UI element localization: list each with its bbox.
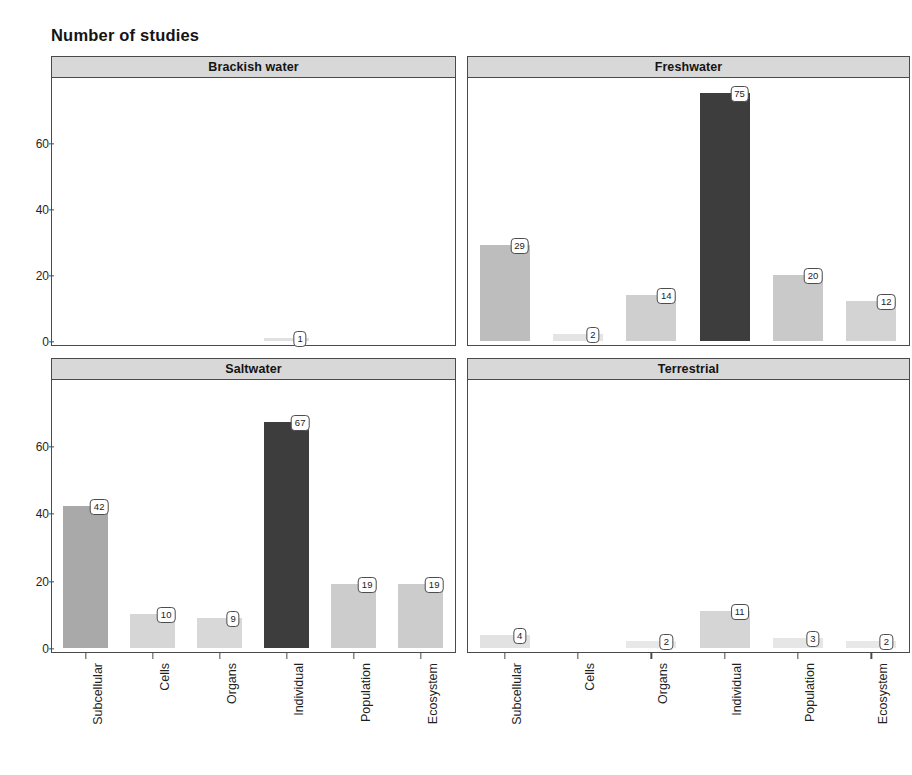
x-axis-tick-mark <box>219 653 220 659</box>
bar-value-label: 3 <box>806 631 819 647</box>
bar-ecosystem <box>398 584 444 648</box>
y-axis-brackish-water: 0204060 <box>9 84 49 342</box>
y-axis-tick-label: 40 <box>36 203 49 217</box>
bar-population <box>331 584 377 648</box>
bar-value-label: 75 <box>730 86 749 102</box>
y-axis-tick-mark <box>49 143 54 144</box>
y-axis-tick-mark <box>49 209 54 210</box>
chart-title: Number of studies <box>51 26 199 45</box>
y-axis-tick-mark <box>49 446 54 447</box>
x-axis-tick-mark <box>871 653 872 659</box>
bar-value-label: 19 <box>425 577 444 593</box>
bar-population <box>773 275 823 341</box>
plot-area-brackish-water: 1 <box>51 77 456 346</box>
plot-inner: 421132 <box>468 386 909 648</box>
bar-value-label: 20 <box>804 268 823 284</box>
y-axis-tick-label: 60 <box>36 440 49 454</box>
y-axis-tick-mark <box>49 275 54 276</box>
bar-individual <box>264 422 310 648</box>
y-axis-tick-label: 20 <box>36 575 49 589</box>
panel-saltwater: Saltwater42109671919 <box>51 358 456 653</box>
x-axis-tick-label-ecosystem: Ecosystem <box>876 663 890 724</box>
y-axis-tick-label: 0 <box>42 642 49 656</box>
panel-terrestrial: Terrestrial421132 <box>467 358 910 653</box>
bar-value-label: 2 <box>880 634 893 650</box>
x-axis-tick-mark <box>651 653 652 659</box>
bar-value-label: 29 <box>510 238 529 254</box>
x-axis-tick-mark <box>286 653 287 659</box>
bar-value-label: 12 <box>877 294 896 310</box>
plot-inner: 29214752012 <box>468 84 909 341</box>
plot-inner: 1 <box>52 84 455 341</box>
x-axis-tick-label-organs: Organs <box>656 663 670 704</box>
y-axis-tick-mark <box>49 581 54 582</box>
y-axis-tick-mark <box>49 648 54 649</box>
panel-freshwater: Freshwater29214752012 <box>467 56 910 346</box>
bar-value-label: 2 <box>660 634 673 650</box>
x-axis-tick-label-subcellular: Subcellular <box>91 663 105 725</box>
panel-header-label: Saltwater <box>225 362 281 376</box>
x-axis-terrestrial: SubcellularCellsOrgansIndividualPopulati… <box>468 653 908 773</box>
bar-value-label: 2 <box>586 327 599 343</box>
y-axis-tick-label: 20 <box>36 269 49 283</box>
plot-area-terrestrial: 421132 <box>467 379 910 653</box>
x-axis-tick-mark <box>420 653 421 659</box>
y-axis-tick-mark <box>49 341 54 342</box>
x-axis-tick-mark <box>577 653 578 659</box>
bar-value-label: 1 <box>294 331 307 347</box>
x-axis-saltwater: SubcellularCellsOrgansIndividualPopulati… <box>52 653 454 773</box>
y-axis-tick-label: 0 <box>42 335 49 349</box>
bar-value-label: 10 <box>157 607 176 623</box>
y-axis-tick-label: 60 <box>36 137 49 151</box>
panel-header-label: Brackish water <box>208 60 298 74</box>
plot-area-freshwater: 29214752012 <box>467 77 910 346</box>
bar-value-label: 42 <box>90 499 109 515</box>
bar-value-label: 9 <box>227 611 240 627</box>
panel-header-label: Terrestrial <box>658 362 719 376</box>
bar-value-label: 11 <box>731 604 749 620</box>
x-axis-tick-label-population: Population <box>803 663 817 722</box>
x-axis-tick-mark <box>504 653 505 659</box>
panel-header-terrestrial: Terrestrial <box>467 358 910 380</box>
plot-inner: 42109671919 <box>52 386 455 648</box>
y-axis-tick-label: 40 <box>36 507 49 521</box>
x-axis-tick-mark <box>85 653 86 659</box>
bar-subcellular <box>480 245 530 341</box>
x-axis-tick-mark <box>353 653 354 659</box>
x-axis-tick-label-individual: Individual <box>730 663 744 716</box>
chart-figure: Number of studies Brackish water10204060… <box>0 0 912 775</box>
bar-subcellular <box>63 506 109 648</box>
panel-header-saltwater: Saltwater <box>51 358 456 380</box>
plot-area-saltwater: 42109671919 <box>51 379 456 653</box>
y-axis-saltwater: 0204060 <box>9 386 49 649</box>
x-axis-tick-label-organs: Organs <box>225 663 239 704</box>
panel-header-label: Freshwater <box>655 60 723 74</box>
x-axis-tick-label-population: Population <box>359 663 373 722</box>
bar-value-label: 19 <box>358 577 377 593</box>
panel-header-freshwater: Freshwater <box>467 56 910 78</box>
y-axis-tick-mark <box>49 513 54 514</box>
x-axis-tick-label-individual: Individual <box>292 663 306 716</box>
bar-value-label: 4 <box>513 628 526 644</box>
x-axis-tick-label-subcellular: Subcellular <box>510 663 524 725</box>
x-axis-tick-mark <box>724 653 725 659</box>
bar-individual <box>700 93 750 341</box>
x-axis-tick-mark <box>152 653 153 659</box>
bar-value-label: 67 <box>291 415 310 431</box>
x-axis-tick-label-cells: Cells <box>158 663 172 691</box>
x-axis-tick-label-cells: Cells <box>583 663 597 691</box>
x-axis-tick-mark <box>797 653 798 659</box>
panel-header-brackish-water: Brackish water <box>51 56 456 78</box>
panel-brackish-water: Brackish water1 <box>51 56 456 346</box>
x-axis-tick-label-ecosystem: Ecosystem <box>426 663 440 724</box>
bar-value-label: 14 <box>657 288 676 304</box>
